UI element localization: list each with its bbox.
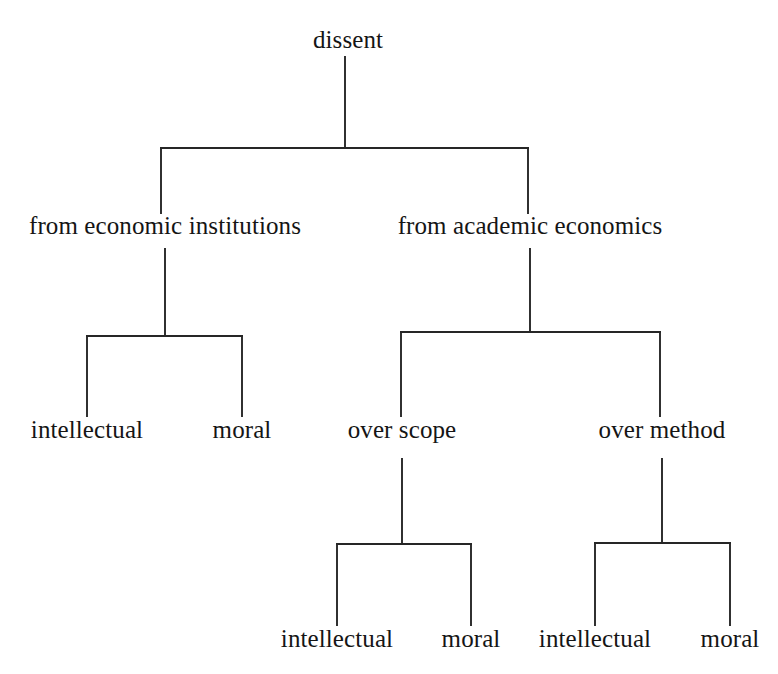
node-label-scope-intellectual: intellectual xyxy=(281,626,393,651)
node-label-method-moral: moral xyxy=(701,626,760,651)
node-label-method-intellectual: intellectual xyxy=(539,626,651,651)
node-label-over-scope: over scope xyxy=(348,417,457,442)
node-label-dissent: dissent xyxy=(313,27,383,52)
node-label-economic-moral: moral xyxy=(213,417,272,442)
node-label-from-academic-economics: from academic economics xyxy=(398,213,663,238)
node-label-economic-intellectual: intellectual xyxy=(31,417,143,442)
connector-layer xyxy=(0,0,778,674)
connector-lines xyxy=(87,57,730,625)
node-label-from-economic-institutions: from economic institutions xyxy=(29,213,301,238)
node-label-scope-moral: moral xyxy=(442,626,501,651)
tree-diagram: dissent from economic institutions from … xyxy=(0,0,778,674)
node-label-over-method: over method xyxy=(599,417,726,442)
